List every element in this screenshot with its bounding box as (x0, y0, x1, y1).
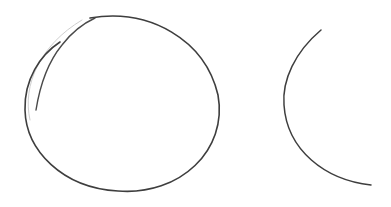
sketch-canvas (0, 0, 391, 207)
sketch-svg (0, 0, 391, 207)
open-arc-shape (284, 30, 371, 185)
